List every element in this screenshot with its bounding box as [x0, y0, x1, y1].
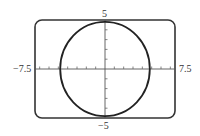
y-min-label: −5 [98, 121, 109, 131]
y-max-label: 5 [102, 9, 107, 19]
x-min-label: −7.5 [13, 64, 31, 74]
x-max-label: 7.5 [179, 64, 192, 74]
